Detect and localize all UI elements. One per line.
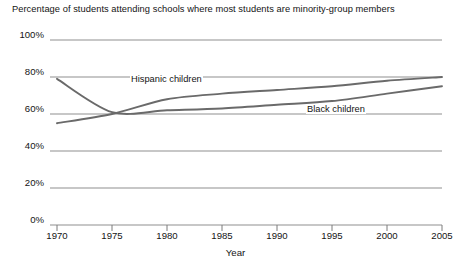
series-label-hispanic: Hispanic children: [130, 74, 203, 84]
series-label-black: Black children: [306, 104, 366, 114]
series-lines: [57, 77, 442, 123]
x-axis-tick-label: 1970: [34, 230, 80, 241]
y-axis-tick-label: 40%: [8, 140, 44, 151]
y-axis-tick-label: 0%: [8, 214, 44, 225]
y-axis-tick-label: 60%: [8, 103, 44, 114]
x-axis-tick-label: 1985: [199, 230, 245, 241]
x-axis-tick-label: 1995: [309, 230, 355, 241]
x-axis-tick-label: 1975: [89, 230, 135, 241]
series-line: [57, 77, 442, 123]
y-axis-tick-label: 20%: [8, 177, 44, 188]
chart-plot-area: [0, 0, 471, 269]
chart-container: Percentage of students attending schools…: [0, 0, 471, 269]
x-axis-tick-label: 2005: [419, 230, 465, 241]
gridlines: [50, 40, 442, 225]
y-axis-tick-label: 100%: [8, 29, 44, 40]
y-axis-tick-label: 80%: [8, 66, 44, 77]
x-axis-tick-label: 2000: [364, 230, 410, 241]
x-axis-tick-label: 1980: [144, 230, 190, 241]
x-axis-tick-label: 1990: [254, 230, 300, 241]
series-line: [57, 79, 442, 114]
x-axis-title: Year: [0, 247, 471, 258]
